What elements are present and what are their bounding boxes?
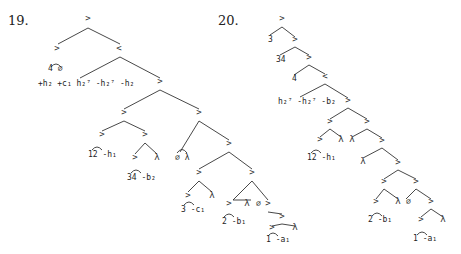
tree19-leaf-label: 3 -c₁ bbox=[181, 205, 205, 214]
tree20-node: > bbox=[345, 95, 351, 105]
tree20-node: > bbox=[373, 196, 379, 206]
tree20-leaf-label: 2 -b₁ bbox=[368, 215, 392, 224]
tree19-leaf-label: 4 ∅ bbox=[48, 64, 63, 73]
tree19-node: > bbox=[265, 198, 271, 208]
tree20-leaf-label: 34 bbox=[276, 55, 286, 64]
tree19-node: > bbox=[226, 138, 232, 148]
diagram-canvas: 19. 20. bbox=[0, 0, 461, 254]
tree20-leaf-label: ∅ bbox=[406, 197, 411, 206]
tree20-node: < bbox=[322, 71, 328, 81]
tree20-node: λ bbox=[440, 214, 446, 224]
tree19-leaf-label: 2 -b₁ bbox=[222, 217, 246, 226]
tree19-leaf-label: ∅ λ bbox=[175, 153, 190, 162]
tree20-node: > bbox=[327, 116, 333, 126]
tree19-node: > bbox=[54, 43, 60, 53]
tree20-node: > bbox=[279, 13, 285, 23]
tree20-node: λ bbox=[360, 156, 366, 166]
tree19-node: > bbox=[85, 13, 91, 23]
tree20-node: > bbox=[317, 134, 323, 144]
tree20-leaf-label: 3 bbox=[268, 35, 273, 44]
tree20-node: > bbox=[306, 52, 312, 62]
tree19-node: λ bbox=[209, 190, 215, 200]
tree19-node: < bbox=[116, 43, 122, 53]
tree19-node: > bbox=[157, 76, 163, 86]
tree20-node: > bbox=[379, 135, 385, 145]
tree-19-nodes: > > < > > > > > > λ > > > > λ > > λ > λ … bbox=[54, 13, 298, 232]
tree19-node: > bbox=[142, 129, 148, 139]
figure-number-19: 19. bbox=[8, 13, 29, 28]
tree20-node: λ bbox=[349, 134, 355, 144]
tree19-node: λ bbox=[154, 152, 160, 162]
tree19-node: > bbox=[196, 107, 202, 117]
tree-19-leaves: 4 ∅ +h₂ +c₁ h₂⁷ -h₂⁷ -h₂ 12 -h₁ 34 -b₂ ∅… bbox=[38, 64, 290, 244]
tree20-node: > bbox=[413, 176, 419, 186]
tree19-node: > bbox=[196, 167, 202, 177]
tree19-leaf-label: +h₂ +c₁ h₂⁷ -h₂⁷ -h₂ bbox=[38, 79, 134, 88]
tree20-node: > bbox=[292, 34, 298, 44]
tree19-node: λ bbox=[244, 198, 250, 208]
tree19-node: λ bbox=[292, 222, 298, 232]
tree20-node: λ bbox=[395, 196, 401, 206]
tree19-node: > bbox=[279, 211, 285, 221]
tree20-node: λ bbox=[338, 134, 344, 144]
tree19-node: > bbox=[185, 190, 191, 200]
tree-20-edges bbox=[270, 27, 443, 235]
tree19-node: > bbox=[226, 198, 232, 208]
tree20-leaf-label: 12 -h₁ bbox=[307, 153, 336, 162]
figure-number-20: 20. bbox=[218, 13, 239, 28]
tree20-node: > bbox=[381, 176, 387, 186]
tree20-node: > bbox=[395, 157, 401, 167]
tree20-leaf-label: 4 bbox=[292, 74, 297, 83]
tree19-node: > bbox=[132, 152, 138, 162]
tree20-leaf-label: h₂⁷ -h₂⁷ -b₂ bbox=[278, 97, 336, 106]
tree19-leaf-label: 1 -a₁ bbox=[266, 235, 290, 244]
tree20-leaf-label: 1 -a₁ bbox=[413, 234, 437, 243]
tree19-leaf-label: ∅ bbox=[256, 199, 261, 208]
tree20-node: > bbox=[428, 196, 434, 206]
tree19-node: > bbox=[249, 167, 255, 177]
tree19-node: > bbox=[99, 129, 105, 139]
tree19-leaf-label: 34 -b₂ bbox=[127, 173, 156, 182]
tree20-node: > bbox=[364, 116, 370, 126]
tree20-node: > bbox=[418, 214, 424, 224]
tree19-node: > bbox=[121, 107, 127, 117]
tree19-leaf-label: 12 -h₁ bbox=[88, 150, 117, 159]
tree19-node: > bbox=[269, 222, 275, 232]
